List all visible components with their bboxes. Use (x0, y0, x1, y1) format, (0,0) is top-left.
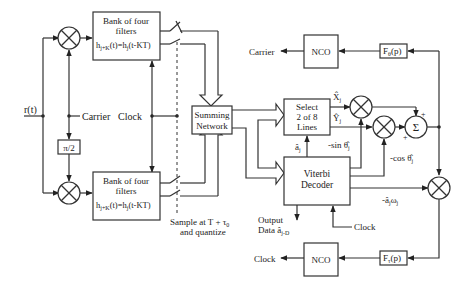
svg-text:Ŷj: Ŷj (333, 113, 342, 124)
f-theta-filter: Fθ(p) (380, 44, 407, 58)
carrier-output-label: Carrier (249, 47, 274, 57)
svg-text:Bank of four: Bank of four (103, 16, 149, 26)
summing-network: Summing Network (192, 106, 232, 134)
viterbi-clock-label: Clock (354, 222, 376, 232)
top-sample-switches (160, 21, 218, 44)
svg-text:Output: Output (258, 215, 284, 225)
svg-text:+: + (403, 133, 408, 142)
clock-output-label: Clock (254, 254, 276, 264)
input-signal: r(t) (24, 38, 59, 193)
filter-bank-top: Bank of four filters hj+K(t)=hj(t-KT) (93, 12, 160, 60)
nco-bottom: NCO (304, 243, 338, 276)
svg-text:Bank of four: Bank of four (103, 176, 149, 186)
filter-bank-bottom: Bank of four filters hj+K(t)=hj(t-KT) (93, 172, 160, 220)
x-mixer-icon (350, 96, 372, 118)
svg-text:filters: filters (116, 26, 137, 36)
carrier-label: Carrier (82, 111, 111, 122)
svg-text:-cos θ̂j: -cos θ̂j (390, 153, 414, 164)
svg-text:Fτ(p): Fτ(p) (383, 253, 401, 264)
bottom-sample-switches (160, 176, 218, 196)
svg-text:and quantize: and quantize (180, 227, 226, 237)
clock-label: Clock (118, 111, 142, 122)
svg-text:Select: Select (296, 102, 318, 112)
sigma-summer-icon: Σ (405, 116, 427, 138)
phase-shift-block: π/2 (58, 140, 80, 154)
svg-text:+: + (421, 110, 426, 119)
select-2-of-8-block: Select 2 of 8 Lines (284, 99, 330, 135)
output-data-label: Data âj-D (258, 225, 290, 236)
svg-text:-sin θ̂j: -sin θ̂j (328, 140, 350, 151)
viterbi-decoder-block: Viterbi Decoder (284, 157, 350, 205)
svg-text:NCO: NCO (311, 47, 331, 57)
svg-text:Decoder: Decoder (301, 180, 334, 190)
svg-text:π/2: π/2 (63, 143, 75, 153)
svg-text:Σ: Σ (413, 121, 419, 133)
svg-text:2 of 8: 2 of 8 (297, 112, 318, 122)
svg-text:Network: Network (196, 121, 228, 131)
timing-mixer-icon (428, 177, 450, 199)
svg-text:X̂j: X̂j (333, 91, 342, 103)
svg-text:filters: filters (116, 186, 137, 196)
svg-text:NCO: NCO (311, 255, 331, 265)
top-mixer-icon (58, 27, 80, 49)
svg-text:r(t): r(t) (24, 104, 37, 116)
svg-text:Fθ(p): Fθ(p) (383, 46, 401, 57)
a-hat-label: âj (295, 142, 301, 153)
f-tau-filter: Fτ(p) (380, 251, 407, 265)
svg-text:-âjωj: -âjωj (382, 195, 399, 206)
receiver-block-diagram: r(t) Carrier Clock π/2 Bank of four (0, 0, 468, 293)
svg-text:Summing: Summing (194, 110, 230, 120)
svg-text:Lines: Lines (297, 122, 317, 132)
svg-text:Viterbi: Viterbi (304, 169, 331, 179)
nco-top: NCO (304, 35, 338, 68)
bottom-mixer-icon (58, 182, 80, 204)
y-mixer-icon (373, 116, 395, 138)
